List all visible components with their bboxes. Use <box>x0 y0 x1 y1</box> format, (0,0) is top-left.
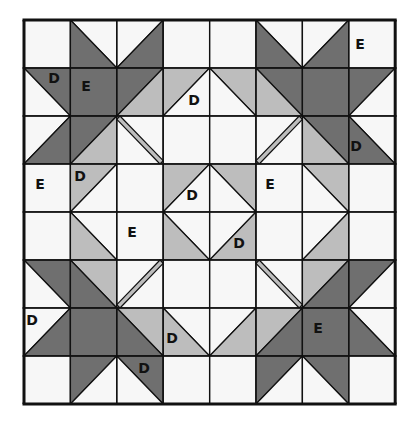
white-square <box>117 164 163 212</box>
piece-label-e: E <box>355 36 365 52</box>
piece-label-d: D <box>74 168 86 184</box>
piece-label-e: E <box>81 78 91 94</box>
white-square <box>24 212 70 260</box>
piece-label-e: E <box>127 224 137 240</box>
white-square <box>163 260 209 308</box>
white-square <box>349 356 395 404</box>
piece-label-d: D <box>26 312 38 328</box>
piece-label-e: E <box>313 320 323 336</box>
white-square <box>163 356 209 404</box>
white-square <box>256 212 302 260</box>
white-square <box>163 20 209 68</box>
piece-label-d: D <box>233 235 245 251</box>
white-square <box>210 356 256 404</box>
dark-square <box>70 68 116 116</box>
piece-label-d: D <box>186 187 198 203</box>
piece-label-d: D <box>188 92 200 108</box>
white-square <box>163 116 209 164</box>
piece-label-e: E <box>35 176 45 192</box>
quilt-diagram: DEEDDEDDEEDDDED <box>0 0 420 424</box>
dark-square <box>70 308 116 356</box>
dark-square <box>302 308 348 356</box>
piece-label-e: E <box>265 176 275 192</box>
white-square <box>210 20 256 68</box>
dark-square <box>302 68 348 116</box>
white-square <box>349 164 395 212</box>
white-square <box>210 260 256 308</box>
white-square <box>349 212 395 260</box>
piece-label-d: D <box>138 360 150 376</box>
white-square <box>256 164 302 212</box>
white-square <box>210 116 256 164</box>
white-square <box>24 20 70 68</box>
white-square <box>24 164 70 212</box>
white-square <box>24 356 70 404</box>
piece-label-d: D <box>48 70 60 86</box>
piece-label-d: D <box>166 330 178 346</box>
piece-label-d: D <box>350 138 362 154</box>
white-square <box>117 212 163 260</box>
